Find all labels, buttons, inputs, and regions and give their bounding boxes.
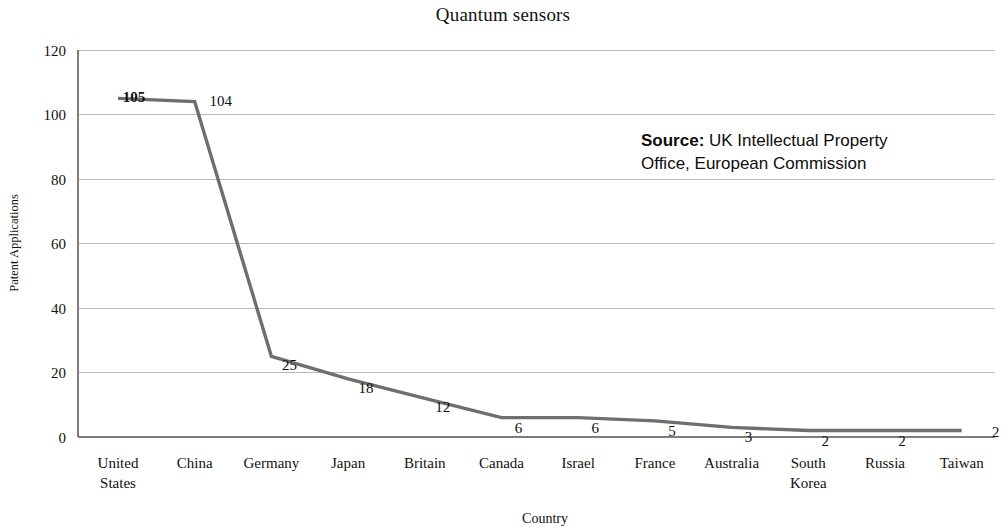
data-point-label: 2 <box>992 424 1000 440</box>
x-axis-category-label: Germany <box>243 455 299 471</box>
source-annotation: Source: UK Intellectual Property <box>641 131 888 150</box>
y-axis-tick-label: 100 <box>44 107 67 123</box>
data-point-label: 2 <box>822 433 830 449</box>
source-annotation-label: Source: <box>641 131 704 150</box>
data-point-label: 2 <box>898 433 906 449</box>
x-axis-category-label: Canada <box>479 455 524 471</box>
x-axis-category-label: Taiwan <box>940 455 984 471</box>
y-axis-tick-label: 0 <box>59 430 67 446</box>
y-axis-tick-label: 60 <box>51 236 66 252</box>
source-annotation-line2: Office, European Commission <box>641 154 867 173</box>
y-axis-title: Patent Applications <box>7 194 21 292</box>
data-point-label: 3 <box>745 429 753 445</box>
chart-figure: 020406080100120 UnitedStatesChinaGermany… <box>0 0 1007 531</box>
data-point-label: 105 <box>123 89 146 105</box>
y-axis-tick-labels: 020406080100120 <box>44 43 67 446</box>
data-point-label: 25 <box>282 357 297 373</box>
data-point-label: 5 <box>668 423 676 439</box>
x-axis-category-label: SouthKorea <box>790 455 827 491</box>
data-point-label: 104 <box>209 93 232 109</box>
y-axis-tick-label: 20 <box>51 365 66 381</box>
data-point-label: 6 <box>591 420 599 436</box>
x-axis-category-label: Australia <box>704 455 759 471</box>
chart-title: Quantum sensors <box>436 4 570 25</box>
source-annotation-line1: UK Intellectual Property <box>704 131 888 150</box>
x-axis-category-label: Japan <box>331 455 366 471</box>
y-axis-tick-label: 80 <box>51 172 66 188</box>
x-axis-category-label: UnitedStates <box>98 455 139 491</box>
y-axis-tick-label: 40 <box>51 301 66 317</box>
x-axis-category-label: Israel <box>562 455 595 471</box>
x-axis-category-label: Russia <box>865 455 905 471</box>
x-axis-category-label: France <box>634 455 675 471</box>
line-chart-canvas: 020406080100120 UnitedStatesChinaGermany… <box>0 0 1007 531</box>
y-axis-tick-label: 120 <box>44 43 67 59</box>
x-axis-title: Country <box>522 511 568 526</box>
data-point-label: 18 <box>359 380 374 396</box>
x-axis-category-label: China <box>177 455 213 471</box>
x-axis-category-labels: UnitedStatesChinaGermanyJapanBritainCana… <box>98 455 985 491</box>
data-point-label: 6 <box>515 420 523 436</box>
data-point-label: 12 <box>435 399 450 415</box>
x-axis-category-label: Britain <box>404 455 446 471</box>
source-annotation-line2-text: Office, European Commission <box>641 154 867 173</box>
